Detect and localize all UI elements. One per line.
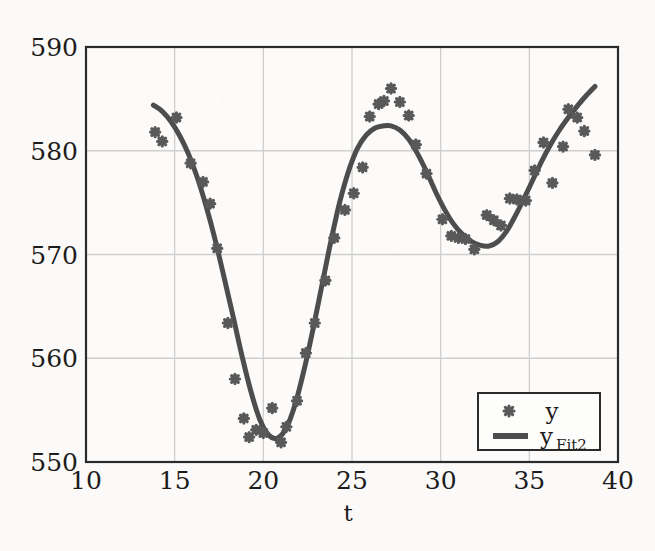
data-point-marker xyxy=(590,150,599,159)
data-point-marker xyxy=(461,234,470,243)
data-point-marker xyxy=(259,428,268,437)
x-tick-label: 15 xyxy=(159,466,191,495)
y-tick-label: 580 xyxy=(30,137,78,166)
x-tick-label: 35 xyxy=(513,466,545,495)
plot-canvas: 10152025303540 550560570580590 t y y Fit… xyxy=(0,0,655,551)
x-tick-label: 40 xyxy=(602,466,634,495)
x-tick-label: 30 xyxy=(425,466,457,495)
data-point-marker xyxy=(558,142,567,151)
data-point-marker xyxy=(395,97,404,106)
x-axis-tick-labels: 10152025303540 xyxy=(70,466,634,495)
data-point-marker xyxy=(386,84,395,93)
data-point-marker xyxy=(186,159,195,168)
x-tick-label: 25 xyxy=(336,466,368,495)
data-point-marker xyxy=(530,166,539,175)
data-point-marker xyxy=(151,127,160,136)
data-point-marker xyxy=(276,438,285,447)
data-point-marker xyxy=(301,348,310,357)
legend-label-yfit2-sub: Fit2 xyxy=(556,436,587,454)
data-point-marker xyxy=(340,205,349,214)
y-tick-label: 570 xyxy=(30,241,78,270)
data-point-marker xyxy=(282,422,291,431)
data-point-marker xyxy=(564,105,573,114)
data-point-marker xyxy=(539,138,548,147)
y-tick-label: 550 xyxy=(30,448,78,477)
y-tick-label: 560 xyxy=(30,344,78,373)
data-point-marker xyxy=(422,169,431,178)
data-point-marker xyxy=(379,96,388,105)
data-point-marker xyxy=(411,140,420,149)
y-axis-tick-labels: 550560570580590 xyxy=(30,33,78,477)
y-tick-label: 590 xyxy=(30,33,78,62)
data-point-marker xyxy=(496,221,505,230)
data-point-marker xyxy=(470,245,479,254)
data-point-marker xyxy=(330,233,339,242)
data-point-marker xyxy=(521,196,530,205)
data-point-marker xyxy=(292,396,301,405)
data-point-marker xyxy=(365,112,374,121)
data-point-marker xyxy=(404,111,413,120)
data-point-marker xyxy=(548,178,557,187)
data-point-marker xyxy=(158,137,167,146)
data-point-marker xyxy=(223,318,232,327)
legend-label-yfit2: y xyxy=(539,423,553,449)
data-point-marker xyxy=(213,244,222,253)
chart-figure: 10152025303540 550560570580590 t y y Fit… xyxy=(0,0,655,551)
data-point-marker xyxy=(580,126,589,135)
asterisk-marker-icon xyxy=(504,406,514,416)
data-point-marker xyxy=(349,189,358,198)
x-tick-label: 20 xyxy=(247,466,279,495)
data-point-marker xyxy=(573,113,582,122)
data-point-marker xyxy=(438,215,447,224)
data-point-marker xyxy=(230,374,239,383)
data-point-marker xyxy=(172,113,181,122)
data-point-marker xyxy=(310,318,319,327)
x-axis-title: t xyxy=(343,500,353,526)
legend[interactable]: y y Fit2 xyxy=(478,393,600,454)
data-point-marker xyxy=(206,199,215,208)
data-point-marker xyxy=(198,177,207,186)
legend-label-y: y xyxy=(545,398,559,424)
data-point-marker xyxy=(268,403,277,412)
data-point-marker xyxy=(358,163,367,172)
data-point-marker xyxy=(239,414,248,423)
data-point-marker xyxy=(321,276,330,285)
